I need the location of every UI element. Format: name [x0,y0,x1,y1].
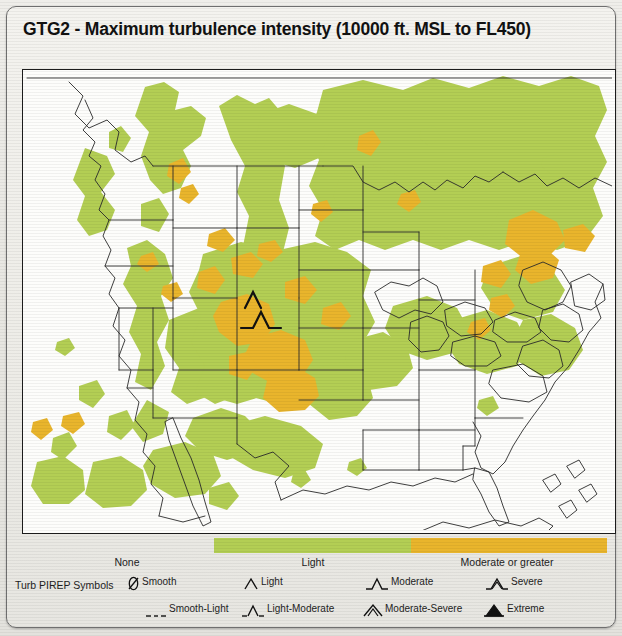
legend-label-moderate: Moderate or greater [407,556,607,568]
moderate-severe-pirep-icon [363,603,383,620]
pirep-label-moderate-severe: Moderate-Severe [385,603,462,614]
pirep-key-light-moderate: Light-Moderate [241,603,334,620]
extreme-pirep-icon [483,603,505,620]
pirep-key-smooth: Smooth [127,576,176,593]
smooth-pirep-icon [127,576,140,593]
pirep-label-severe: Severe [511,576,543,587]
pirep-key-moderate-severe: Moderate-Severe [363,603,462,620]
pirep-key-smooth-light: Smooth-Light [145,603,228,620]
pirep-label-light-moderate: Light-Moderate [267,603,334,614]
pirep-label-smooth: Smooth [142,576,176,587]
pirep-key-extreme: Extreme [483,603,544,620]
pirep-label-light: Light [261,576,283,587]
forecast-panel: GTG2 - Maximum turbulence intensity (100… [6,6,616,628]
severe-pirep-icon [485,576,509,593]
light-moderate-pirep-icon [241,603,265,620]
pirep-label-moderate: Moderate [391,576,433,587]
legend-bar-light [214,538,411,553]
page-title: GTG2 - Maximum turbulence intensity (100… [23,19,603,45]
pirep-label-extreme: Extreme [507,603,544,614]
turbulence-map[interactable]: Created by ADDS [22,69,616,534]
moderate-pirep-icon [365,576,389,593]
legend-bar-moderate [411,538,607,553]
pirep-key-light: Light [243,576,283,593]
light-pirep-icon [243,576,259,593]
pirep-label-smooth-light: Smooth-Light [169,603,228,614]
pirep-heading: Turb PIREP Symbols [15,579,114,591]
legend-label-light: Light [265,556,361,568]
smooth-light-pirep-icon [145,603,167,620]
map-canvas: Created by ADDS [23,70,612,530]
pirep-key-moderate: Moderate [365,576,433,593]
legend-label-none: None [85,556,169,568]
pirep-key-severe: Severe [485,576,543,593]
